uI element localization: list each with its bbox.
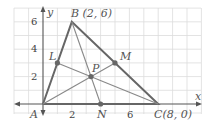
- y-axis-label: y: [46, 6, 54, 19]
- grid: [14, 8, 201, 114]
- y-tick-2: 2: [31, 71, 37, 82]
- point-n: [98, 101, 103, 106]
- x-tick-6: 6: [127, 109, 133, 120]
- label-p: P: [91, 62, 100, 75]
- median-c-l: [57, 63, 158, 104]
- x-tick-2: 2: [69, 109, 75, 120]
- label-b: B (2, 6): [70, 7, 112, 20]
- point-m: [112, 60, 117, 65]
- label-a: A: [29, 108, 38, 121]
- label-c: C(8, 0): [154, 108, 192, 121]
- label-m: M: [119, 50, 132, 63]
- y-tick-6: 6: [31, 16, 37, 27]
- label-l: L: [48, 50, 56, 63]
- x-axis-left-arrow-icon: [14, 102, 20, 107]
- y-tick-4: 4: [31, 43, 37, 54]
- axes: [14, 6, 202, 116]
- x-axis-label: x: [195, 90, 202, 103]
- median-a-m: [43, 63, 115, 104]
- label-n: N: [96, 108, 107, 121]
- coordinate-diagram: 6 4 2 2 6 y x B (2, 6) A C(8, 0) L M N P: [0, 0, 214, 127]
- y-axis-up-arrow-icon: [41, 6, 46, 12]
